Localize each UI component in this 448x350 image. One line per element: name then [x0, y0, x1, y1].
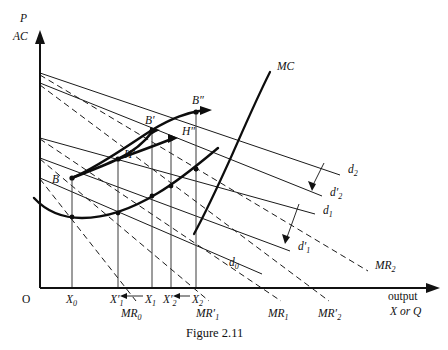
- curve-label-mr0: MR0: [120, 307, 142, 322]
- point-dot-ac-x0: [70, 215, 75, 220]
- point-dot-H-prime: [115, 156, 120, 161]
- point-label-H-prime: H′: [123, 148, 135, 160]
- demand-line-d2: [40, 73, 340, 175]
- axes-group: [35, 30, 440, 293]
- mr-line-mr1: [40, 139, 281, 301]
- point-dot-ac-x1-prime: [116, 211, 121, 216]
- shift-arrowhead-d2: [308, 181, 316, 191]
- point-dot-B-prime: [149, 128, 154, 133]
- curve-label-mr2: MR2: [374, 259, 396, 274]
- point-dot-B-double-prime: [193, 109, 198, 114]
- x-tick-label-x2-prime: X′2: [162, 293, 177, 308]
- point-label-H-double-prime: H″: [181, 125, 195, 137]
- mr-line-mr2-prime: [40, 85, 329, 301]
- equilibrium-path-group: [72, 110, 204, 178]
- upper-equilibrium-path-extension: [72, 110, 204, 178]
- x-axis-label-quantity: X or Q: [389, 305, 422, 317]
- point-label-B-double-prime: B″: [192, 94, 204, 106]
- point-dot-mc-x2: [194, 167, 199, 172]
- figure-caption: Figure 2.11: [186, 326, 243, 340]
- x-axis-arrowhead: [426, 283, 440, 293]
- figure-container: X0 X′1 X1 X′2 X2 O P AC: [0, 0, 448, 350]
- mr-line-mr1-prime: [40, 159, 209, 301]
- point-label-B-prime: B′: [145, 114, 155, 126]
- curve-label-mr1: MR1: [267, 307, 289, 322]
- y-axis-arrowhead: [35, 30, 45, 44]
- point-dot-H-double-prime: [168, 135, 173, 140]
- demand-line-d2-prime: [40, 83, 322, 196]
- x-tick-labels-group: X0 X′1 X1 X′2 X2: [65, 293, 203, 308]
- x-tick-label-x1-prime: X′1: [109, 293, 124, 308]
- point-dot-ac-x2-prime: [169, 184, 174, 189]
- y-axis-label-averagecost: AC: [12, 30, 28, 42]
- demand-line-d1-prime: [40, 158, 290, 251]
- curve-label-d2: d2: [348, 163, 358, 178]
- shift-arrowhead-d1: [282, 234, 290, 244]
- y-axis-label-price: P: [19, 12, 27, 24]
- x-tick-label-x1: X1: [144, 293, 156, 308]
- curve-label-d2-prime: d′2: [330, 186, 342, 201]
- curve-label-mc: MC: [276, 60, 295, 72]
- point-dot-ac-x1: [150, 194, 155, 199]
- origin-label: O: [22, 293, 30, 305]
- curve-label-d1: d1: [323, 204, 333, 219]
- economics-diagram: X0 X′1 X1 X′2 X2 O P AC: [0, 0, 448, 350]
- x-tick-label-x2: X2: [191, 293, 203, 308]
- curve-label-d1-prime: d′1: [298, 240, 310, 255]
- x-axis-label-output: output: [388, 290, 418, 303]
- arrowhead-b-double-prime: [200, 106, 212, 115]
- curve-label-mr1-prime: MR′1: [195, 307, 219, 322]
- shift-annotations-group: [282, 163, 324, 244]
- curve-label-mr2-prime: MR′2: [317, 307, 341, 322]
- marginal-cost-curve: [194, 72, 270, 234]
- shift-arrow-d1: [286, 204, 299, 240]
- point-label-B: B: [52, 173, 59, 185]
- demand-line-d1: [40, 138, 315, 214]
- curve-label-d0: d0: [229, 256, 239, 271]
- mr-line-mr0: [40, 179, 136, 301]
- point-dot-B: [69, 175, 74, 180]
- x-tick-label-x0: X0: [65, 293, 77, 308]
